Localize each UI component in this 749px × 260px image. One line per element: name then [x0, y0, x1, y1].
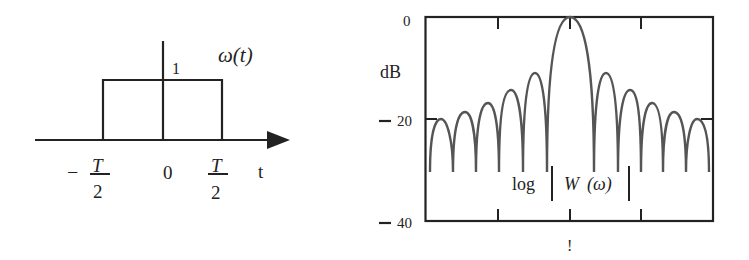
annotation-omega: (ω) — [587, 174, 612, 195]
half-T-den: 2 — [211, 182, 221, 203]
pulse-diagram: 1 ω(t) − T 2 0 T 2 t — [35, 41, 290, 203]
spectrum-curve — [430, 17, 709, 172]
spectrum-plot: 0 dB 20 40 log W (ω) ! — [379, 13, 713, 254]
y-tick-0: 0 — [403, 13, 411, 29]
t-axis-label: t — [258, 161, 264, 182]
t-axis-arrow-icon — [267, 131, 290, 149]
y-axis-label: dB — [380, 62, 401, 82]
annotation-W: W — [564, 174, 581, 194]
y-tick-40: 40 — [397, 215, 412, 231]
annotation-log: log — [512, 174, 535, 194]
origin-label: 0 — [163, 162, 173, 183]
neg-half-T-den: 2 — [93, 181, 103, 202]
neg-half-T-num: T — [92, 155, 104, 176]
y-tick-20: 20 — [397, 113, 412, 129]
height-label: 1 — [172, 60, 180, 77]
function-label: ω(t) — [218, 43, 253, 67]
x-axis-label: ! — [567, 237, 572, 254]
neg-sign: − — [67, 161, 78, 183]
half-T-num: T — [211, 155, 223, 176]
figure-canvas: 1 ω(t) − T 2 0 T 2 t 0 dB — [0, 0, 749, 260]
